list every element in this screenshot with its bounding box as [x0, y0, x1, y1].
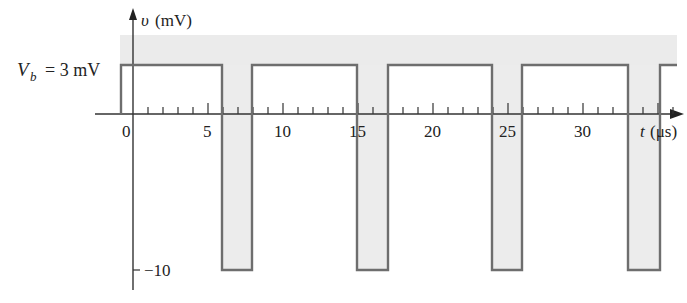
x-tick-label: 0 [122, 122, 131, 141]
x-tick-label: 20 [424, 122, 441, 141]
y-axis-label: υ [141, 11, 149, 30]
x-tick-label: 5 [203, 122, 212, 141]
vb-subscript: b [30, 69, 37, 84]
vb-symbol: V [17, 59, 31, 80]
x-tick-label: 10 [274, 122, 291, 141]
y-axis-arrow-icon [129, 8, 137, 20]
x-tick-label: 30 [574, 122, 591, 141]
y-axis-unit: (mV) [155, 11, 192, 30]
pulse-waveform-figure: υ (mV) V b = 3 mV −10 051015202530 t (μs… [0, 0, 687, 303]
x-tick-label: 25 [499, 122, 516, 141]
vb-value-label: = 3 mV [45, 60, 100, 80]
x-axis-arrow-icon [670, 109, 684, 119]
x-axis-unit: (μs) [650, 122, 677, 141]
low-level-label: −10 [144, 261, 171, 280]
waveform [121, 65, 677, 270]
shaded-band [120, 35, 677, 65]
pulse-shading [222, 65, 660, 270]
x-tick-label: 15 [349, 122, 366, 141]
